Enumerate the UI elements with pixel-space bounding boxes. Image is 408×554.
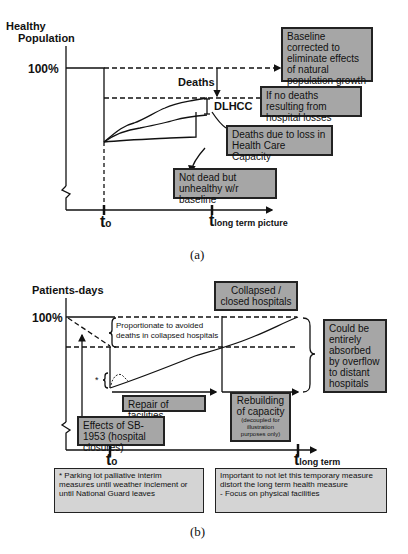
- deaths-loss-box: Deaths due to loss in Health Care Capaci…: [226, 125, 333, 156]
- collapsed-hospitals-box: Collapsed / closed hospitals: [214, 281, 298, 311]
- y-tick-100: 100%: [28, 63, 59, 75]
- y-axis-label-b: Patients-days: [32, 284, 104, 296]
- no-deaths-box: If no deaths resulting from hospital los…: [260, 86, 362, 117]
- caption-a: (a): [190, 247, 204, 263]
- asterisk-marker: *: [95, 375, 99, 385]
- t0-label: to: [100, 214, 111, 232]
- baseline-corrected-box: Baseline corrected to eliminate effects …: [281, 27, 373, 82]
- y-tick-100-b: 100%: [32, 312, 63, 324]
- repair-facilities-box: Repair of facilities: [122, 395, 206, 412]
- caption-b: (b): [190, 524, 205, 540]
- not-dead-box: Not dead but unhealthy w/r baseline: [173, 168, 277, 199]
- y-axis-label-line2: Population: [18, 32, 75, 44]
- important-note-box: Important to not let this temporary meas…: [215, 468, 387, 513]
- t-long-label: tlong term picture: [209, 213, 288, 231]
- parking-lot-note-box: * Parking lot palliative interim measure…: [54, 468, 204, 513]
- proportionate-label: Proportionate to avoided deaths in colla…: [116, 321, 218, 341]
- sb1953-effects-box: Effects of SB-1953 (hospital closures): [77, 416, 165, 446]
- dlhcc-label: DLHCC: [214, 100, 253, 112]
- absorbed-overflow-box: Could be entirely absorbed by overflow t…: [323, 319, 387, 393]
- y-axis-label-line1: Healthy: [6, 20, 46, 32]
- rebuilding-capacity-box: Rebuilding of capacity (decoupled for il…: [230, 392, 291, 442]
- deaths-label: Deaths: [178, 76, 215, 88]
